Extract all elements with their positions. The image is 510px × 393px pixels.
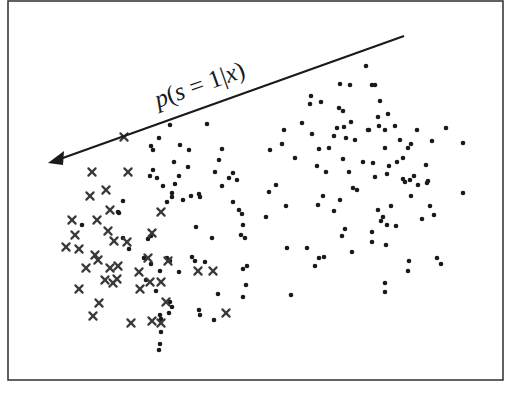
- data-point-dot: [340, 234, 345, 239]
- data-point-cross-icon: [146, 278, 153, 285]
- arrow-line: [60, 36, 404, 159]
- data-point-dot: [335, 126, 340, 131]
- data-point-dot: [241, 223, 246, 228]
- data-point-dot: [332, 209, 337, 214]
- data-point-dot: [210, 236, 215, 241]
- data-point-dot: [284, 204, 289, 209]
- data-point-dot: [364, 64, 369, 69]
- data-point-dot: [324, 170, 329, 175]
- data-point-dot: [267, 190, 272, 195]
- data-point-dot: [220, 147, 225, 152]
- data-point-cross-icon: [123, 238, 130, 245]
- data-point-cross-icon: [127, 319, 134, 326]
- data-point-cross-icon: [106, 264, 113, 271]
- probability-arrow: [48, 36, 404, 165]
- data-point-dot: [177, 270, 182, 275]
- data-point-dot: [353, 138, 358, 143]
- data-point-dot: [412, 174, 417, 179]
- data-point-dot: [373, 175, 378, 180]
- data-point-dot: [80, 223, 85, 228]
- data-point-dot: [161, 184, 166, 189]
- data-point-cross-icon: [135, 268, 142, 275]
- data-point-dot: [416, 183, 421, 188]
- data-point-dot: [408, 178, 413, 183]
- data-point-cross-icon: [89, 312, 96, 319]
- data-point-cross-icon: [194, 267, 201, 274]
- data-point-dot: [177, 174, 182, 179]
- data-point-dot: [370, 240, 375, 245]
- data-point-dot: [157, 348, 162, 353]
- data-point-dot: [310, 132, 315, 137]
- data-point-dot: [274, 183, 279, 188]
- data-point-dot: [407, 259, 412, 264]
- data-point-dot: [244, 283, 249, 288]
- data-point-dot: [282, 128, 287, 133]
- data-point-dot: [203, 260, 208, 265]
- data-point-cross-icon: [114, 262, 121, 269]
- data-point-dot: [385, 172, 390, 177]
- data-point-dot: [231, 200, 236, 205]
- data-point-dot: [198, 313, 203, 318]
- arrow-label: p(s = 1|x): [149, 56, 249, 115]
- data-point-dot: [289, 293, 294, 298]
- data-point-dot: [198, 195, 203, 200]
- data-point-cross-icon: [101, 276, 108, 283]
- data-point-dot: [300, 121, 305, 126]
- data-point-dot: [432, 213, 437, 218]
- data-point-dot: [319, 100, 324, 105]
- data-point-dot: [194, 225, 199, 230]
- data-point-cross-icon: [102, 186, 109, 193]
- data-point-dot: [280, 142, 285, 147]
- data-point-dot: [342, 125, 347, 130]
- data-point-dot: [170, 195, 175, 200]
- data-point-dot: [373, 83, 378, 88]
- data-point-dot: [213, 170, 218, 175]
- data-point-dot: [349, 120, 354, 125]
- data-point-dot: [381, 215, 386, 220]
- data-point-dot: [158, 313, 163, 318]
- data-point-dot: [430, 139, 435, 144]
- data-point-dot: [383, 128, 388, 133]
- data-point-cross-icon: [113, 275, 120, 282]
- data-point-dot: [439, 262, 444, 267]
- data-point-dot: [347, 170, 352, 175]
- data-point-dot: [444, 126, 449, 131]
- data-point-dot: [379, 219, 384, 224]
- data-point-cross-icon: [75, 245, 82, 252]
- data-point-dot: [401, 156, 406, 161]
- data-point-dot: [384, 243, 389, 248]
- data-point-dot: [181, 198, 186, 203]
- data-point-dot: [409, 142, 414, 147]
- data-point-dot: [158, 269, 163, 274]
- data-point-cross-icon: [110, 237, 117, 244]
- data-point-dot: [386, 112, 391, 117]
- data-point-dot: [193, 259, 198, 264]
- data-point-dot: [264, 215, 269, 220]
- data-point-dot: [154, 289, 159, 294]
- data-point-dot: [338, 82, 343, 87]
- data-point-dot: [387, 164, 392, 169]
- data-point-cross-icon: [222, 309, 229, 316]
- data-point-dot: [343, 227, 348, 232]
- data-point-dot: [337, 106, 342, 111]
- data-point-dot: [187, 148, 192, 153]
- data-point-dot: [155, 176, 160, 181]
- data-point-dot: [393, 124, 398, 129]
- data-point-dot: [268, 148, 273, 153]
- data-point-dot: [117, 211, 122, 216]
- data-point-dot: [149, 144, 154, 149]
- data-point-dot: [383, 146, 388, 151]
- data-point-dot: [370, 230, 375, 235]
- data-point-dot: [420, 217, 425, 222]
- data-point-dot: [355, 188, 360, 193]
- data-point-dot: [424, 163, 429, 168]
- data-point-dot: [327, 146, 332, 151]
- data-point-dot: [151, 148, 156, 153]
- data-point-dot: [235, 178, 240, 183]
- data-point-dot: [309, 94, 314, 99]
- data-point-cross-icon: [209, 267, 216, 274]
- data-point-cross-icon: [75, 285, 82, 292]
- data-point-dot: [350, 250, 355, 255]
- data-point-dot: [148, 174, 153, 179]
- data-point-dot: [371, 161, 376, 166]
